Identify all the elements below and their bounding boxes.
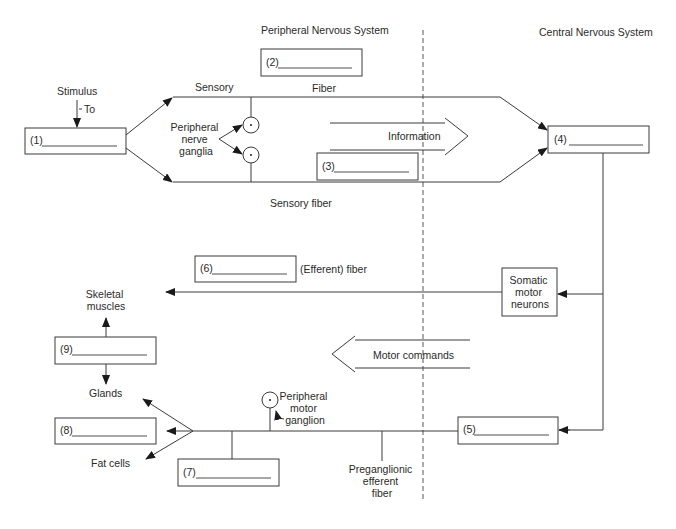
- blank-label-9: (9): [60, 343, 73, 355]
- blank-label-2: (2): [266, 56, 279, 68]
- preganglionic-efferent-fiber-label: Preganglionic efferent fiber: [349, 463, 416, 499]
- sensory-label: Sensory: [195, 81, 234, 93]
- sensory-arrow-bottom: [126, 148, 172, 182]
- cns-output-line: [559, 153, 603, 430]
- blank-box-9[interactable]: (9): [55, 337, 156, 364]
- blank-box-3[interactable]: (3): [317, 153, 418, 180]
- efferent-fiber-label: (Efferent) fiber: [300, 263, 367, 275]
- pns-title: Peripheral Nervous System: [261, 24, 389, 36]
- blank-box-7[interactable]: (7): [178, 459, 279, 486]
- information-arrow: Information: [330, 118, 468, 155]
- blank-label-4: (4): [554, 133, 567, 145]
- blank-box-1[interactable]: (1): [25, 128, 126, 154]
- motor-commands-arrow: Motor commands: [332, 336, 470, 372]
- nervous-system-diagram: Peripheral Nervous System Central Nervou…: [0, 0, 676, 529]
- sensory-arrow-top: [126, 98, 172, 135]
- blank-box-6[interactable]: (6): [195, 256, 296, 282]
- blank-label-3: (3): [322, 160, 335, 172]
- blank-box-8[interactable]: (8): [55, 418, 156, 444]
- fiber-label: Fiber: [312, 82, 336, 94]
- stimulus-label: Stimulus: [57, 85, 97, 97]
- sensory-fiber-top: [173, 97, 547, 130]
- somatic-motor-neurons-box: Somatic motor neurons: [502, 268, 557, 316]
- blank-label-6: (6): [200, 262, 213, 274]
- peripheral-motor-ganglion-label: Peripheral motor ganglion: [280, 390, 331, 426]
- svg-text:Motor commands: Motor commands: [373, 349, 454, 361]
- svg-text:Information: Information: [388, 130, 441, 142]
- blank-label-1: (1): [30, 134, 43, 146]
- blank-box-4[interactable]: (4): [548, 126, 649, 153]
- blank-box-5[interactable]: (5): [458, 417, 558, 444]
- blank-box-2[interactable]: (2): [261, 49, 362, 76]
- blank-label-5: (5): [463, 423, 476, 435]
- sensory-fiber-label: Sensory fiber: [270, 197, 332, 209]
- blank-label-7: (7): [183, 466, 196, 478]
- cns-title: Central Nervous System: [539, 26, 653, 38]
- peripheral-nerve-ganglia-label: Peripheral nerve ganglia: [171, 121, 222, 157]
- blank-label-8: (8): [60, 424, 73, 436]
- fat-cells-label: Fat cells: [91, 457, 130, 469]
- svg-text:Somatic motor neur: Somatic motor neurons: [510, 274, 551, 310]
- to-label: To: [84, 103, 95, 115]
- skeletal-muscles-label: Skeletal muscles: [86, 288, 126, 312]
- glands-label: Glands: [89, 387, 122, 399]
